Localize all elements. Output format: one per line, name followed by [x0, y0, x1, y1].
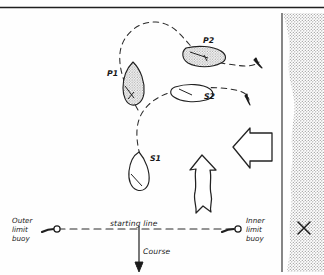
wind-direction-arrow — [233, 128, 272, 168]
sailing-start-diagram: P1 P2 S2 S1 starti — [0, 0, 324, 275]
inner-limit-buoy — [222, 226, 241, 232]
inner-buoy-label-line2: limit — [246, 225, 263, 234]
port-track-arrowhead — [254, 58, 262, 68]
boat-s1 — [129, 152, 149, 191]
boat-label-p2: P2 — [203, 36, 214, 45]
boat-label-s1: S1 — [150, 154, 161, 163]
outer-limit-buoy — [42, 226, 60, 232]
starting-line-label: starting line — [110, 219, 158, 228]
tide-current-arrow — [190, 155, 216, 213]
shore-land — [282, 13, 324, 272]
diagram-canvas: P1 P2 S2 S1 starti — [0, 0, 324, 275]
course-label: Course — [143, 247, 171, 256]
course-arrow — [135, 226, 143, 272]
outer-buoy-label-line3: buoy — [12, 234, 31, 243]
outer-buoy-label-line2: limit — [12, 225, 29, 234]
boat-label-s2: S2 — [204, 92, 215, 101]
boat-p1 — [123, 62, 144, 105]
boat-label-p1: P1 — [107, 69, 118, 78]
inner-buoy-label-line3: buoy — [246, 234, 265, 243]
boat-p2 — [183, 46, 226, 66]
outer-buoy-label-line1: Outer — [12, 216, 33, 225]
inner-buoy-label-line1: Inner — [246, 216, 266, 225]
